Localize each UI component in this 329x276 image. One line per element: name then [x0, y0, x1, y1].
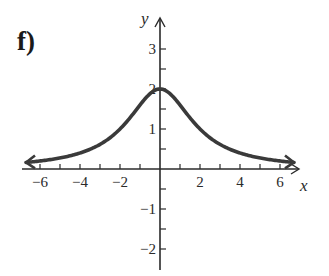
- x-tick-label: 4: [236, 174, 244, 190]
- x-tick-label: −4: [72, 174, 88, 190]
- x-tick-label: −2: [112, 174, 128, 190]
- y-tick-label: 1: [149, 121, 157, 137]
- x-tick-label: 6: [276, 174, 284, 190]
- x-axis-label: x: [299, 176, 308, 195]
- x-tick-label: −6: [32, 174, 48, 190]
- tick-labels: xy−6−4−2246321−1−2: [32, 9, 308, 257]
- chart-plot-area: xy−6−4−2246321−1−2: [0, 0, 329, 276]
- axes: [22, 18, 299, 270]
- y-tick-label: 3: [149, 41, 157, 57]
- y-tick-label: −2: [140, 241, 156, 257]
- y-axis-label: y: [139, 9, 149, 28]
- x-tick-label: 2: [196, 174, 204, 190]
- y-tick-label: −1: [140, 201, 156, 217]
